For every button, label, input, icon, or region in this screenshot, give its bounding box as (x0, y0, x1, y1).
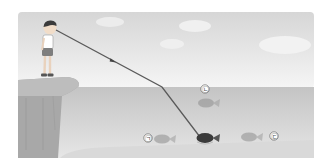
label-a: ㉠ (144, 134, 152, 143)
cloud (160, 39, 184, 49)
label-b: ㉡ (201, 85, 209, 94)
boy-shirt (43, 35, 53, 49)
cloud (179, 20, 211, 32)
cloud (96, 17, 124, 27)
cloud (259, 36, 311, 54)
svg-text:㉠: ㉠ (145, 135, 152, 143)
svg-text:㉢: ㉢ (271, 133, 278, 141)
label-c: ㉢ (270, 132, 278, 141)
boy-shorts (42, 48, 53, 56)
svg-text:㉡: ㉡ (202, 86, 209, 94)
refraction-diagram: ㉠ ㉡ ㉢ (0, 0, 329, 168)
